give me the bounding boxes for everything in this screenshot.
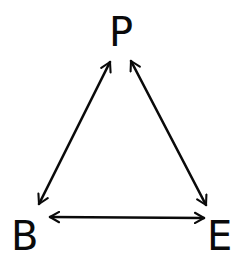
edge-b-e (50, 217, 204, 218)
edge-p-e (131, 61, 206, 205)
node-e-label: E (207, 216, 232, 256)
reciprocal-determinism-diagram: P B E (0, 0, 245, 261)
node-b-label: B (11, 216, 38, 256)
node-p-label: P (109, 12, 133, 52)
edge-p-b (39, 62, 110, 204)
